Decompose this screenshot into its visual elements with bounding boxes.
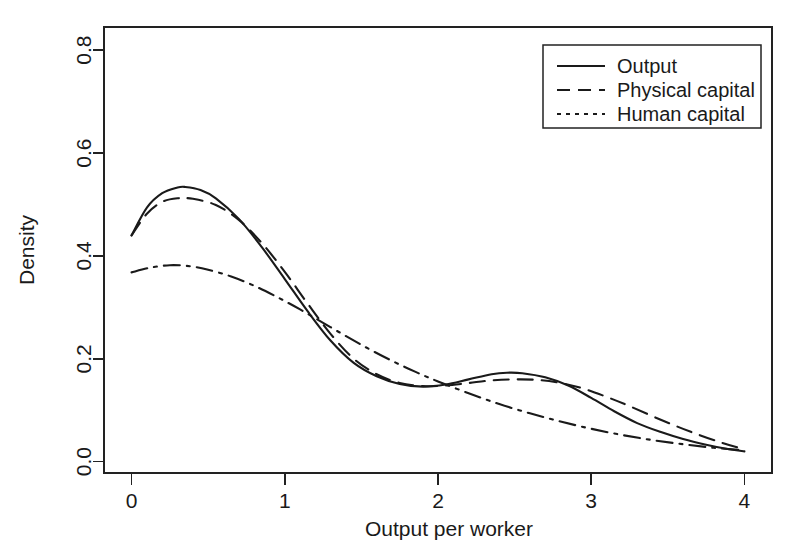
legend-label: Human capital [617, 103, 745, 125]
x-tick-label: 4 [739, 489, 751, 512]
x-axis-title: Output per worker [365, 517, 533, 540]
x-tick-label: 2 [432, 489, 444, 512]
legend-label: Physical capital [617, 79, 755, 101]
y-tick-label: 0.6 [72, 138, 95, 167]
x-tick-label: 1 [279, 489, 291, 512]
legend-label: Output [617, 55, 677, 77]
chart-canvas: 0.00.20.40.60.8 01234 OutputPhysical cap… [0, 0, 794, 556]
series-curve-physical-capital [132, 198, 745, 449]
y-axis-title: Density [15, 214, 38, 285]
chart-legend: OutputPhysical capitalHuman capital [543, 45, 761, 128]
series-curve-output [132, 187, 745, 452]
y-tick-label: 0.4 [73, 241, 96, 271]
series-curve-human-capital [132, 265, 745, 450]
series-curves [132, 187, 745, 452]
x-tick-label: 0 [126, 489, 138, 512]
x-axis-ticks: 01234 [126, 473, 751, 512]
y-tick-label: 0.0 [73, 447, 96, 476]
y-tick-label: 0.8 [73, 36, 96, 65]
density-plot-figure: 0.00.20.40.60.8 01234 OutputPhysical cap… [0, 0, 794, 556]
y-axis-ticks: 0.00.20.40.60.8 [72, 36, 104, 477]
x-tick-label: 3 [585, 489, 597, 512]
y-tick-label: 0.2 [73, 344, 96, 373]
